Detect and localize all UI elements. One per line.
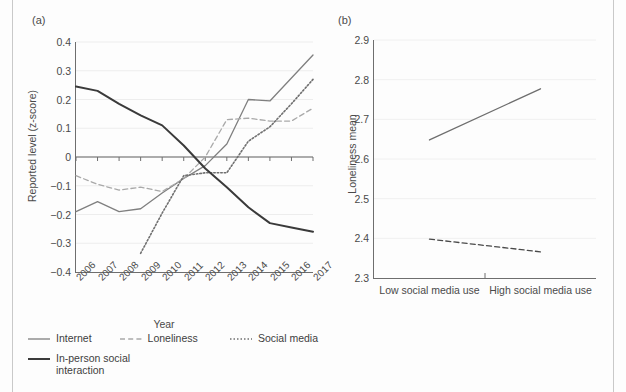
panel-a-y-tick-label: −0.1	[50, 180, 71, 192]
panel-b-y-tick-label: 2.4	[354, 232, 369, 244]
panel-b-y-tick-label: 2.7	[354, 113, 369, 125]
legend-item: Internet	[28, 332, 110, 345]
panel-a-y-tick-label: −0.3	[50, 237, 71, 249]
legend-line-swatch	[28, 333, 50, 345]
legend-item-label: Internet	[56, 332, 92, 345]
panel-a-series-canvas	[76, 42, 313, 272]
panel-a-x-axis-title: Year	[153, 318, 174, 330]
series-line	[430, 89, 541, 140]
figure-right-rule	[613, 0, 614, 392]
panel-b-plot-area: 2.32.42.52.62.72.82.9Low social media us…	[373, 40, 596, 279]
panel-b-y-tick-label: 2.3	[354, 272, 369, 284]
panel-a-legend-row: In-person social interaction	[28, 352, 328, 377]
legend-item: Social media	[230, 332, 318, 345]
figure-canvas: (a) Reported level (z-score) −0.4−0.3−0.…	[0, 0, 626, 392]
legend-line-swatch	[120, 333, 142, 345]
panel-b-y-tick-label: 2.9	[354, 34, 369, 46]
panel-b-y-tick-label: 2.5	[354, 193, 369, 205]
panel-a-y-tick-label: 0.3	[56, 65, 71, 77]
series-line	[76, 87, 313, 232]
panel-a-y-axis-title: Reported level (z-score)	[26, 66, 38, 226]
panel-b-tag: (b)	[338, 14, 351, 26]
panel-a-tag: (a)	[32, 14, 45, 26]
series-line	[76, 108, 313, 191]
panel-b: (b) Loneliness mean 2.32.42.52.62.72.82.…	[330, 0, 612, 392]
panel-a-y-tick-label: 0	[65, 151, 71, 163]
panel-a-y-tick-label: 0.4	[56, 36, 71, 48]
panel-b-y-tick-label: 2.8	[354, 74, 369, 86]
legend-item: In-person social interaction	[28, 352, 178, 377]
figure-left-rule	[12, 0, 13, 392]
panel-a-legend-row: InternetLonelinessSocial media	[28, 332, 328, 345]
series-line	[430, 239, 541, 252]
legend-item-label: In-person social interaction	[56, 352, 178, 377]
legend-item-label: Social media	[258, 332, 318, 345]
panel-a-y-tick-label: −0.2	[50, 209, 71, 221]
panel-a: (a) Reported level (z-score) −0.4−0.3−0.…	[14, 0, 320, 392]
legend-item: Loneliness	[120, 332, 220, 345]
panel-a-y-tick-label: −0.4	[50, 266, 71, 278]
panel-a-y-tick-label: 0.2	[56, 94, 71, 106]
legend-line-swatch	[28, 353, 50, 365]
panel-a-legend: InternetLonelinessSocial mediaIn-person …	[28, 332, 328, 377]
panel-b-series-canvas	[374, 40, 596, 278]
panel-b-x-tick-label: Low social media use	[379, 284, 479, 296]
legend-line-swatch	[230, 333, 252, 345]
panel-b-x-tick-label: High social media use	[489, 284, 592, 296]
panel-a-y-tick-label: 0.1	[56, 122, 71, 134]
panel-a-plot-area: −0.4−0.3−0.2−0.100.10.20.30.420062007200…	[75, 42, 313, 273]
legend-item-label: Loneliness	[148, 332, 198, 345]
panel-b-y-tick-label: 2.6	[354, 153, 369, 165]
